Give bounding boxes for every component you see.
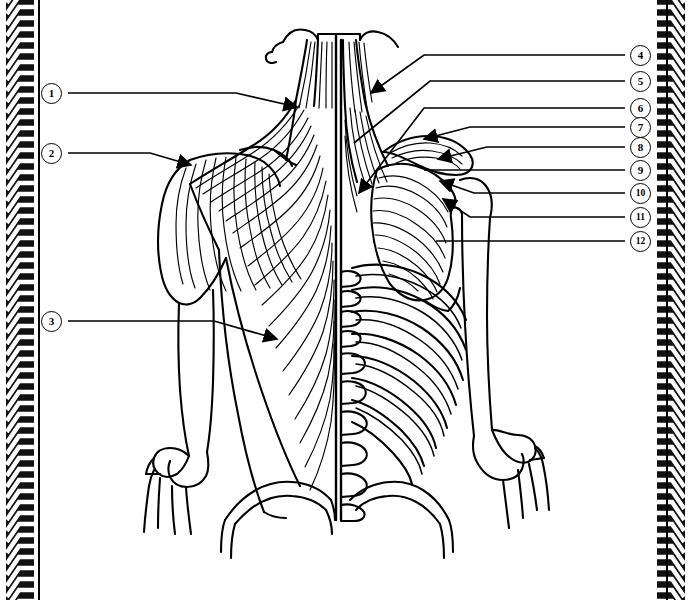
callout-number-10[interactable]: 10 xyxy=(630,183,651,204)
callout-leader-lines xyxy=(0,0,690,600)
callout-number-9[interactable]: 9 xyxy=(630,160,651,181)
leader-line-4 xyxy=(371,55,625,93)
leader-line-3 xyxy=(68,321,277,339)
leader-line-6 xyxy=(359,108,625,193)
leader-line-1 xyxy=(68,93,297,107)
diagram-page: 1 2 3 4 5 6 7 8 9 10 11 12 xyxy=(0,0,690,600)
leader-line-8 xyxy=(438,147,625,159)
leader-line-7 xyxy=(424,127,625,139)
leader-line-10 xyxy=(440,181,625,193)
callout-number-4[interactable]: 4 xyxy=(630,45,651,66)
callout-number-6[interactable]: 6 xyxy=(630,98,651,119)
callout-number-11[interactable]: 11 xyxy=(630,207,651,228)
callout-number-3[interactable]: 3 xyxy=(41,311,62,332)
callout-number-7[interactable]: 7 xyxy=(630,117,651,138)
leader-line-5 xyxy=(354,81,625,143)
leader-line-11 xyxy=(443,199,625,217)
callout-number-8[interactable]: 8 xyxy=(630,137,651,158)
callout-number-5[interactable]: 5 xyxy=(630,71,651,92)
leader-line-2 xyxy=(68,153,191,165)
callout-number-2[interactable]: 2 xyxy=(41,143,62,164)
callout-number-12[interactable]: 12 xyxy=(630,231,651,252)
callout-number-1[interactable]: 1 xyxy=(41,83,62,104)
